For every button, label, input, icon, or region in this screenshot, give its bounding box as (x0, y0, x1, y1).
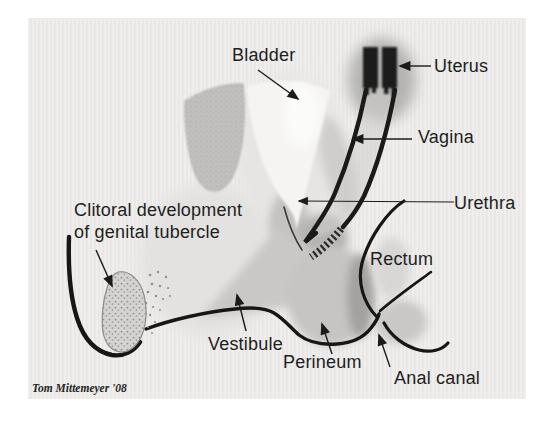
label-bladder: Bladder (232, 45, 295, 66)
uterus-fringe-2 (372, 86, 376, 93)
uterus-horn-left (363, 47, 378, 88)
label-urethra: Urethra (454, 193, 515, 214)
label-vagina: Vagina (418, 127, 474, 148)
uterus-horn-right (382, 47, 397, 88)
label-uterus: Uterus (434, 56, 488, 77)
artist-credit: Tom Mittemeyer '08 (32, 382, 127, 394)
mesenchyme-stippled-cone (185, 84, 245, 191)
clitoral-arrow (96, 250, 112, 286)
label-perineum: Perineum (283, 352, 362, 373)
label-rectum: Rectum (370, 249, 433, 270)
genital-tubercle-body (102, 272, 146, 352)
label-clitoral-line2: of genital tubercle (74, 222, 220, 243)
figure-page: Bladder Uterus Vagina Urethra Clitoral d… (0, 0, 550, 426)
label-vestibule: Vestibule (208, 334, 283, 355)
uterus-fringe-3 (384, 86, 389, 94)
label-clitoral-line1: Clitoral development (74, 200, 242, 221)
label-anal-canal: Anal canal (394, 368, 480, 389)
